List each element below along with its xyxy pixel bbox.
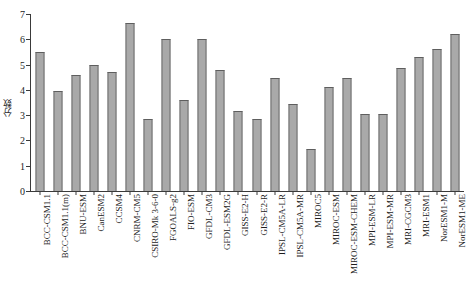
x-label-slot: MIROC5	[302, 194, 320, 304]
bar-slot	[374, 14, 392, 191]
bar-slot	[320, 14, 338, 191]
x-label-slot: IPSL-CM5A-LR	[266, 194, 284, 304]
bar	[54, 91, 63, 191]
bar	[126, 23, 135, 191]
bar-slot	[85, 14, 103, 191]
x-axis-labels: BCC-CSM1.1BCC-CSM1.1(m)BNU-ESMCanESM2CCS…	[31, 194, 464, 304]
bar-slot	[428, 14, 446, 191]
x-label-slot: NorESM1-M	[428, 194, 446, 304]
bar-slot	[338, 14, 356, 191]
bar	[36, 52, 45, 191]
bar	[450, 34, 459, 191]
bar-slot	[356, 14, 374, 191]
y-axis-label: 分数	[0, 78, 14, 138]
y-tick-label: 4	[20, 84, 25, 95]
bar	[324, 87, 333, 191]
x-label-slot: BNU-ESM	[67, 194, 85, 304]
bar	[360, 114, 369, 191]
bar	[396, 68, 405, 191]
bar	[144, 119, 153, 191]
x-label-slot: NorESM1-ME	[446, 194, 464, 304]
bar-slot	[103, 14, 121, 191]
y-tick-mark	[26, 191, 30, 192]
x-label-slot: MPI-ESM-LR	[356, 194, 374, 304]
x-label-slot: GISS-E2-H	[229, 194, 247, 304]
x-label-slot: GISS-E2-R	[248, 194, 266, 304]
plot-area: 01234567	[30, 14, 464, 192]
y-tick-mark	[26, 39, 30, 40]
bar	[378, 114, 387, 191]
bar-slot	[31, 14, 49, 191]
x-label-slot: CNRM-CM5	[121, 194, 139, 304]
bar	[414, 57, 423, 191]
bar-slot	[229, 14, 247, 191]
y-tick-mark	[26, 65, 30, 66]
y-tick-label: 0	[20, 186, 25, 197]
bar-slot	[121, 14, 139, 191]
bar-slot	[284, 14, 302, 191]
y-tick-label: 7	[20, 9, 25, 20]
x-label-slot: MPI-ESM-MR	[374, 194, 392, 304]
x-label-slot: BCC-CSM1.1	[31, 194, 49, 304]
bar-slot	[410, 14, 428, 191]
x-label-slot: CSIRO-Mk 3-6-0	[139, 194, 157, 304]
bar-chart: 分数 01234567 BCC-CSM1.1BCC-CSM1.1(m)BNU-E…	[0, 0, 472, 307]
bar	[270, 78, 279, 191]
bar	[288, 104, 297, 191]
bar	[216, 70, 225, 191]
y-tick-label: 1	[20, 160, 25, 171]
x-label-slot: CanESM2	[85, 194, 103, 304]
y-tick-mark	[26, 166, 30, 167]
bar	[162, 39, 171, 191]
x-label-slot: IPSL-CM5A-MR	[284, 194, 302, 304]
bar	[72, 75, 81, 191]
x-label-slot: CCSM4	[103, 194, 121, 304]
bar	[198, 39, 207, 191]
bar-slot	[211, 14, 229, 191]
y-tick-mark	[26, 14, 30, 15]
x-label-slot: FIO-ESM	[175, 194, 193, 304]
y-tick-label: 5	[20, 59, 25, 70]
bar	[234, 111, 243, 191]
bar	[342, 78, 351, 191]
bar	[180, 100, 189, 191]
bar-slot	[193, 14, 211, 191]
y-tick-mark	[26, 90, 30, 91]
x-label-slot: GFDL-CM3	[193, 194, 211, 304]
bar	[90, 65, 99, 191]
x-label-slot: GFDL-ESM2G	[211, 194, 229, 304]
x-label-slot: FGOALS-g2	[157, 194, 175, 304]
bar-slot	[446, 14, 464, 191]
x-label-slot: MRI-CGCM3	[392, 194, 410, 304]
bar-slot	[67, 14, 85, 191]
y-tick-mark	[26, 140, 30, 141]
y-tick-mark	[26, 115, 30, 116]
bar-slot	[302, 14, 320, 191]
bar-slot	[157, 14, 175, 191]
y-tick-label: 3	[20, 110, 25, 121]
bar-slot	[175, 14, 193, 191]
x-label-slot: MIROC-ESM	[320, 194, 338, 304]
bar-slot	[266, 14, 284, 191]
y-tick-label: 6	[20, 34, 25, 45]
bar	[108, 72, 117, 191]
x-label-slot: MRI-ESM1	[410, 194, 428, 304]
x-label-slot: MIROC-ESM-CHEM	[338, 194, 356, 304]
bar-slot	[392, 14, 410, 191]
bar-slot	[49, 14, 67, 191]
x-axis-line	[30, 191, 464, 192]
bar-slot	[248, 14, 266, 191]
bar-slot	[139, 14, 157, 191]
bar	[432, 49, 441, 191]
x-label-slot: BCC-CSM1.1(m)	[49, 194, 67, 304]
bar	[306, 149, 315, 191]
bar-series	[31, 14, 464, 191]
y-tick-label: 2	[20, 135, 25, 146]
x-tick-label: NorESM1-ME	[458, 194, 467, 248]
bar	[252, 119, 261, 191]
